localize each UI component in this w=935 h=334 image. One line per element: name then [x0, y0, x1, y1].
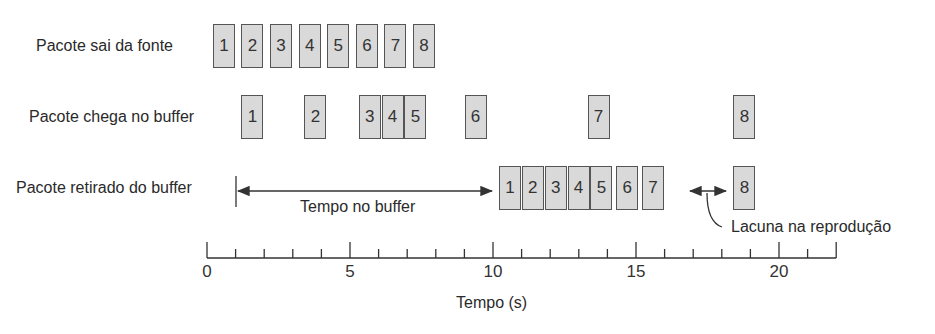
time-axis — [207, 242, 836, 258]
axis-tick-label: 15 — [627, 262, 646, 282]
axis-tick-label: 0 — [202, 262, 211, 282]
playback-gap-label: Lacuna na reprodução — [731, 218, 891, 236]
axis-label: Tempo (s) — [456, 294, 527, 312]
diagram-lines — [0, 0, 935, 334]
axis-tick-label: 5 — [345, 262, 354, 282]
gap-leader — [707, 193, 722, 227]
buffer-time-label: Tempo no buffer — [300, 198, 415, 216]
axis-tick-label: 20 — [770, 262, 789, 282]
axis-tick-label: 10 — [484, 262, 503, 282]
